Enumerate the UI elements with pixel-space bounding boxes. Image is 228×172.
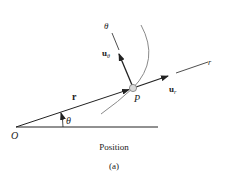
unit-transverse-sub: θ (107, 53, 110, 59)
unit-vector-utheta-arrow (119, 54, 132, 85)
transverse-axis-label: θ (104, 21, 109, 31)
angle-label: θ (66, 115, 71, 126)
point-label: P (133, 93, 140, 104)
position-vector-label: r (72, 91, 77, 102)
unit-radial-label: ur (169, 84, 177, 95)
origin-label: O (11, 130, 18, 141)
figure-caption: Position (99, 142, 129, 152)
unit-radial-sub: r (174, 89, 177, 95)
unit-transverse-label: uθ (102, 48, 110, 59)
radial-axis-line (176, 62, 208, 73)
radial-axis-label: r (208, 58, 212, 67)
particle-p (129, 84, 136, 91)
transverse-axis-line (112, 33, 119, 50)
angle-theta-arc (61, 113, 63, 127)
figure-sublabel: (a) (109, 161, 119, 171)
polar-coordinates-diagram: O P r θ r θ ur uθ Position (a) (0, 0, 228, 172)
